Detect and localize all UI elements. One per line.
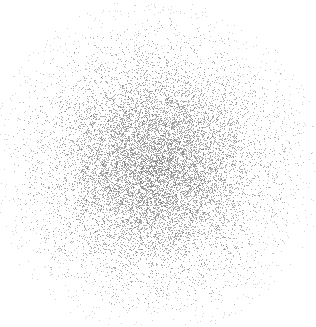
scatter-plot-figure [0, 0, 316, 327]
scatter-plot-canvas [0, 0, 316, 327]
